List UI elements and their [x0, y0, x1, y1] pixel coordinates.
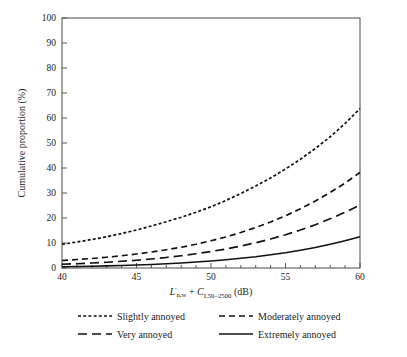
y-tick-label: 30: [47, 188, 57, 198]
legend-label: Slightly annoyed: [117, 311, 185, 322]
figure-container: 4045505560 0102030405060708090100 Cumula…: [0, 0, 407, 357]
x-axis-plus: +: [186, 286, 197, 297]
y-tick-label: 50: [47, 138, 57, 148]
y-tick-label: 70: [47, 88, 57, 98]
x-tick-label: 40: [57, 272, 67, 282]
y-tick-label: 90: [47, 38, 57, 48]
legend-label: Extremely annoyed: [258, 329, 336, 340]
y-tick-label: 80: [47, 63, 57, 73]
x-tick-label: 60: [355, 272, 365, 282]
y-axis-title-text: Cumulative proportion (%): [16, 89, 28, 198]
legend-label: Moderately annoyed: [258, 311, 340, 322]
x-axis-sub-ci: I,50–2500: [204, 292, 232, 299]
cumulative-annoyance-chart: 4045505560 0102030405060708090100 Cumula…: [0, 0, 407, 357]
legend-label: Very annoyed: [117, 329, 172, 340]
chart-background: [0, 0, 407, 357]
y-tick-label: 10: [47, 238, 57, 248]
y-tick-label: 60: [47, 113, 57, 123]
x-tick-label: 50: [206, 272, 216, 282]
y-axis-title: Cumulative proportion (%): [16, 89, 28, 198]
x-axis-sub-nw: n,w: [176, 291, 186, 298]
y-tick-label: 100: [42, 13, 57, 23]
y-tick-label: 0: [51, 263, 56, 273]
x-axis-units: (dB): [232, 286, 253, 298]
x-tick-label: 55: [281, 272, 291, 282]
x-tick-label: 45: [132, 272, 142, 282]
y-tick-label: 20: [47, 213, 57, 223]
y-tick-label: 40: [47, 163, 57, 173]
